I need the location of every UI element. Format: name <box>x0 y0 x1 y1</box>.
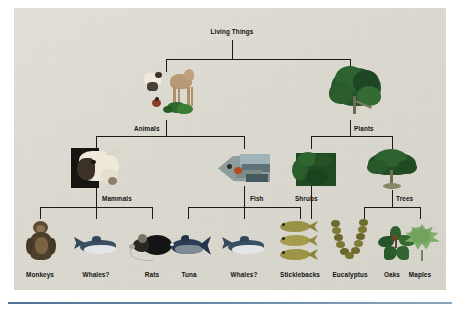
leaf-label-whales-mammal: Whales? <box>83 271 110 279</box>
cow-head-photo-icon <box>71 148 125 188</box>
node-label-shrubs: Shrubs <box>295 195 318 203</box>
edge-mammals-to-monkeys <box>40 207 41 219</box>
classification-diagram: Living Things Animals <box>14 8 446 290</box>
leaf-label-monkeys: Monkeys <box>26 271 54 279</box>
edge-root-bar <box>166 59 351 60</box>
leaf-label-eucalyptus: Eucalyptus <box>332 271 367 279</box>
edge-root-stem <box>232 40 233 60</box>
node-label-living-things: Living Things <box>211 28 254 36</box>
node-label-trees: Trees <box>396 195 413 203</box>
node-label-fish: Fish <box>250 195 264 203</box>
leaf-label-maples: Maples <box>409 271 431 279</box>
whale-icon-2 <box>222 234 268 260</box>
edge-animals-to-fish <box>244 136 245 149</box>
leaf-label-rats: Rats <box>145 271 159 279</box>
edge-plants-stem <box>350 120 351 137</box>
leaf-label-sticklebacks: Sticklebacks <box>280 271 320 279</box>
edge-trees-to-maples <box>420 207 421 219</box>
stickleback-icon <box>276 221 324 263</box>
leaf-label-tuna: Tuna <box>181 271 196 279</box>
edge-fish-to-whales <box>244 207 245 219</box>
edge-mammals-to-whales <box>96 207 97 219</box>
leaf-label-oaks: Oaks <box>384 271 400 279</box>
edge-fish-to-tuna <box>188 207 189 219</box>
camel-photo-icon <box>144 68 206 120</box>
eucalyptus-icon <box>329 219 369 264</box>
edge-animals-stem <box>166 120 167 137</box>
edge-fish-stem <box>244 186 245 208</box>
edge-animals-bar <box>96 136 245 137</box>
edge-plants-bar <box>311 136 393 137</box>
node-label-animals: Animals <box>134 125 160 133</box>
fish-head-photo-icon <box>218 150 270 186</box>
edge-shrubs-to-eucalyptus <box>311 186 312 219</box>
tuna-icon <box>167 234 211 260</box>
shrub-photo-icon <box>292 151 336 186</box>
edge-plants-to-shrubs <box>311 136 312 149</box>
maple-leaf-icon <box>404 224 442 262</box>
tree-photo-icon <box>329 66 385 120</box>
footer-rule <box>8 302 452 304</box>
edge-fish-to-sticklebacks <box>300 207 301 219</box>
edge-trees-stem <box>392 190 393 208</box>
monkey-icon <box>25 221 57 263</box>
whale-icon <box>74 234 120 260</box>
node-label-mammals: Mammals <box>102 195 132 203</box>
edge-mammals-to-rats <box>152 207 153 219</box>
node-label-plants: Plants <box>354 125 374 133</box>
leaf-label-whales-fish: Whales? <box>231 271 258 279</box>
tree-crown-photo-icon <box>367 148 417 190</box>
edge-mammals-stem <box>96 188 97 208</box>
edge-trees-bar <box>364 207 420 208</box>
edge-trees-to-oaks <box>364 207 365 219</box>
